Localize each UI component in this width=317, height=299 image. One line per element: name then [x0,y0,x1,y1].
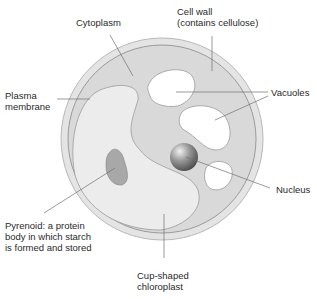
label-pyrenoid-line1: Pyrenoid: a protein [5,220,92,231]
label-pyrenoid: Pyrenoid: a protein body in which starch… [5,220,92,253]
cell-diagram [0,0,317,299]
label-cell-wall: Cell wall (contains cellulose) [177,6,258,28]
label-plasma-line1: Plasma [5,90,50,101]
nucleus [170,143,198,171]
label-vacuoles: Vacuoles [271,87,309,98]
label-plasma-membrane: Plasma membrane [5,90,50,112]
label-chloroplast-line2: chloroplast [137,281,189,292]
label-cell-wall-line1: Cell wall [177,6,258,17]
label-cell-wall-line2: (contains cellulose) [177,17,258,28]
label-pyrenoid-line2: body in which starch [5,231,92,242]
label-pyrenoid-line3: is formed and stored [5,242,92,253]
label-plasma-line2: membrane [5,101,50,112]
label-chloroplast-line1: Cup-shaped [137,270,189,281]
label-chloroplast: Cup-shaped chloroplast [137,270,189,292]
label-cytoplasm: Cytoplasm [76,17,121,28]
label-nucleus: Nucleus [276,184,310,195]
